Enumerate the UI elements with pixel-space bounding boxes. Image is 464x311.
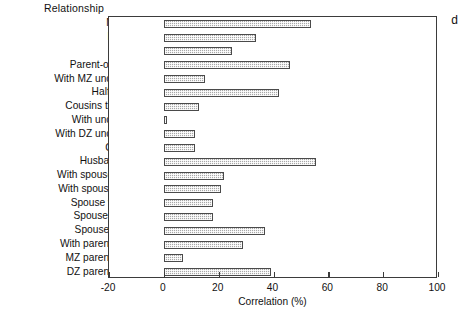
bar [164,199,213,207]
bar [164,130,196,138]
bar [164,268,271,276]
x-axis-tick [109,272,110,277]
bar [164,158,316,166]
bar [164,185,222,193]
bar [164,61,290,69]
relationship-column-header: Relationship [0,2,148,14]
x-axis-tick [328,272,329,277]
x-axis-tick-label: 40 [267,282,278,293]
x-axis-tick [274,272,275,277]
bar [164,213,213,221]
bar [164,47,233,55]
bar [164,172,224,180]
bar [164,89,279,97]
x-axis-tick-label: 20 [212,282,223,293]
bar [164,34,256,42]
x-axis-tick-label: 80 [376,282,387,293]
panel-letter-label: d [451,13,458,27]
figure-panel-d: Relationship MZ twinDZ twinSiblingParent… [0,0,464,311]
bar [164,254,183,262]
x-axis-title: Correlation (%) [108,296,437,307]
x-axis-tick [438,272,439,277]
bar [164,144,196,152]
x-axis-tick-label: -20 [101,282,116,293]
x-axis-tick-label: 100 [429,282,446,293]
bar [164,20,311,28]
x-axis-tick [383,272,384,277]
x-axis-tick-label: 60 [322,282,333,293]
bar [164,103,200,111]
bar [164,116,167,124]
x-axis-tick-label: 0 [160,282,166,293]
bar [164,75,205,83]
x-axis-tick [164,272,165,277]
bar [164,227,265,235]
plot-area [108,16,437,278]
bar [164,241,244,249]
bar-series [109,17,436,277]
x-axis-tick [219,272,220,277]
